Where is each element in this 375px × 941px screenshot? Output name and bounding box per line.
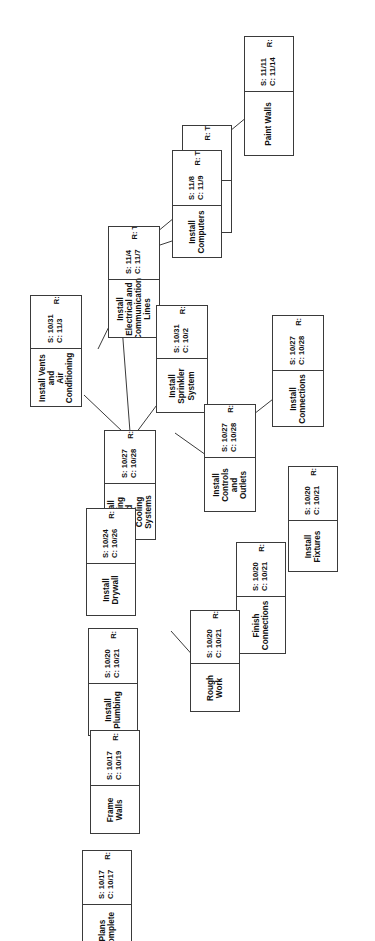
task-complete-date: C: 11/14 [269,57,278,86]
divider [172,205,222,206]
task-complete-date: C: 10/21 [261,562,270,591]
task-title: Frame Walls [90,786,140,834]
task-complete-date: C: 10/28 [130,449,139,478]
task-resource: R: JH [52,295,61,304]
task-title: Install Controls and Outlets [204,458,256,512]
task-resource: R: CS [265,36,274,47]
task-title: Finish Connections [236,597,286,654]
task-title: Install Fixtures [288,521,338,572]
link-heating-to-controls [175,433,206,455]
task-complete-date: C: 10/17 [107,870,116,899]
divider [88,683,138,684]
task-title: Install Electrical and Communication Lin… [108,280,160,338]
divider [82,904,132,905]
task-node-install-fixtures[interactable]: Install Fixtures S: 10/20 C: 10/21 R: WK [288,466,338,572]
task-complete-date: C: 10/28 [230,423,239,452]
task-title: Paint Walls [244,92,294,156]
task-node-install-plumbing[interactable]: Install Plumbing S: 10/20 C: 10/21 R: WK [88,628,138,736]
task-resource: R: WK [107,508,116,519]
divider [108,279,160,280]
task-title: Install Computers [172,206,222,258]
task-node-rough-work[interactable]: Rough Work S: 10/20 C: 10/21 R: WK [190,610,240,712]
task-node-install-computers[interactable]: Install Computers S: 11/8 C: 11/9 R: TB [172,150,222,258]
task-title: Install Drywall [86,564,136,616]
task-complete-date: C: 11/9 [197,176,206,200]
divider [288,520,338,521]
task-node-frame-walls[interactable]: Frame Walls S: 10/17 C: 10/19 R: WK [90,730,140,834]
divider [204,457,256,458]
divider [30,348,82,349]
task-resource: R: WK [109,628,118,639]
task-node-install-controls-and-outlets[interactable]: Install Controls and Outlets S: 10/27 C:… [204,404,256,512]
task-node-install-sprinkler-system[interactable]: Install Sprinkler System S: 10/31 C: 10/… [156,305,208,413]
task-title: Rough Work [190,664,240,712]
task-complete-date: C: 11/3 [56,314,65,343]
divider [86,563,136,564]
task-node-install-electrical-and-communication-lines[interactable]: Install Electrical and Communication Lin… [108,226,160,338]
task-resource: R: JH [294,315,303,326]
task-resource: R: GT [178,305,187,314]
divider [244,91,294,92]
divider [104,483,156,484]
task-complete-date: C: 10/19 [115,751,124,780]
task-complete-date: C: 10/26 [111,529,120,558]
task-node-install-connections[interactable]: Install Connections S: 10/27 C: 10/28 R:… [272,315,324,427]
divider [272,370,324,371]
task-resource: R: TB [193,150,202,166]
divider [190,663,240,664]
task-resource: R: TB [130,226,139,240]
task-title: Install Connections [272,371,324,427]
divider [236,596,286,597]
task-resource: R: WK [257,542,266,552]
task-complete-date: C: 11/7 [134,250,143,274]
task-resource: R: WK [103,850,112,860]
task-title: Install Sprinkler System [156,359,208,413]
task-title: Plans Complete [82,905,132,941]
task-complete-date: C: 10/21 [215,629,224,658]
task-node-install-vents-and-air-conditioning[interactable]: Install Vents and Air Conditioning S: 10… [30,295,82,407]
task-resource: R: TB [203,125,212,141]
task-resource: R: WK [211,610,220,619]
task-complete-date: C: 10/2 [182,324,191,353]
link-heating-to-vents [84,395,124,433]
task-node-paint-walls[interactable]: Paint Walls S: 11/11 C: 11/14 R: CS [244,36,294,156]
task-title: Install Plumbing [88,684,138,736]
divider [156,358,208,359]
task-resource: R: WK [111,730,120,741]
task-resource: R: WK [309,466,318,476]
divider [90,785,140,786]
task-node-finish-connections[interactable]: Finish Connections S: 10/20 C: 10/21 R: … [236,542,286,654]
task-resource: R: JH [126,430,135,439]
task-resource: R: JH [226,404,235,413]
network-diagram-canvas: Paint Walls S: 11/11 C: 11/14 R: CS Inst… [0,0,375,941]
task-node-plans-complete[interactable]: Plans Complete S: 10/17 C: 10/17 R: WK [82,850,132,941]
task-complete-date: C: 10/21 [313,486,322,515]
task-title: Install Vents and Air Conditioning [30,349,82,407]
task-complete-date: C: 10/21 [113,649,122,678]
task-node-install-drywall[interactable]: Install Drywall S: 10/24 C: 10/26 R: WK [86,508,136,616]
task-complete-date: C: 10/28 [298,336,307,365]
